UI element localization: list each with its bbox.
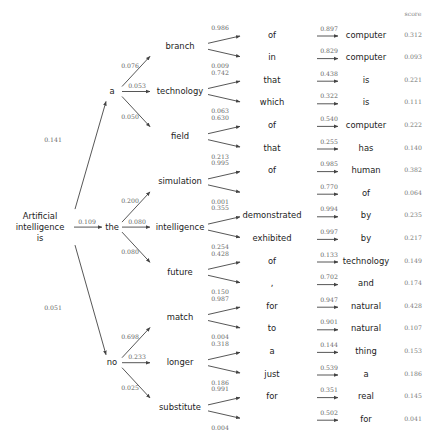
level4-probability: 0.540 [320,115,338,122]
edge-level2-to-level3 [208,275,240,282]
edge-root-to-level1 [75,102,106,210]
level4-token: real [358,391,374,401]
level3-token: of [268,30,277,40]
level3-probability: 0.991 [211,385,229,392]
level4-token: and [358,278,374,288]
beam-search-tree-diagram: Artificialintelligenceisscorea0.141the0.… [0,0,434,444]
level4-probability: 0.947 [320,296,338,303]
level4-token: human [351,165,380,175]
level4-probability: 0.255 [320,138,338,145]
labels-layer: Artificialintelligenceisscorea0.141the0.… [16,10,422,431]
edge-level2-to-level3 [208,352,240,359]
level2-probability: 0.080 [128,218,146,225]
level3-token: exhibited [253,233,292,243]
level1-probability: 0.051 [44,304,62,311]
level4-probability: 0.994 [320,205,338,212]
level2-probability: 0.025 [121,384,139,391]
level4-token: for [360,414,372,424]
edge-level2-to-level3 [208,217,240,224]
level2-token: match [167,312,194,322]
level4-probability: 0.985 [320,160,338,167]
level3-token: for [266,391,278,401]
sequence-score: 0.312 [404,31,422,38]
level4-probability: 0.502 [320,409,338,416]
edge-root-to-level1 [75,245,106,355]
level2-token: longer [167,357,194,367]
level2-probability: 0.080 [121,248,139,255]
level3-probability: 0.630 [211,114,229,121]
level1-probability: 0.141 [44,136,62,143]
level1-token: no [107,357,117,367]
level4-probability: 0.702 [320,273,338,280]
edge-level2-to-level3 [208,398,240,405]
level4-token: of [362,188,371,198]
sequence-score: 0.186 [404,370,422,377]
level3-token: to [268,323,276,333]
level3-token: of [268,256,277,266]
sequence-score: 0.140 [404,144,422,151]
level2-probability: 0.200 [121,197,139,204]
edge-level1-to-level2 [122,97,150,127]
level3-probability: 0.986 [211,24,229,31]
level3-probability: 0.987 [211,295,229,302]
edge-level2-to-level3 [208,185,240,192]
edge-level2-to-level3 [208,366,240,373]
level2-token: substitute [159,402,201,412]
score-column-header: score [405,10,422,17]
level3-probability: 0.428 [211,250,229,257]
level3-token: for [266,301,278,311]
level3-token: , [271,278,274,288]
root-prompt-line: intelligence [16,222,65,232]
level1-token: the [105,222,119,232]
level3-probability: 0.004 [211,424,229,431]
level3-token: a [269,346,274,356]
level4-probability: 0.829 [320,47,338,54]
root-prompt-line: Artificial [23,211,57,221]
sequence-score: 0.235 [404,211,422,218]
edge-level2-to-level3 [208,262,240,269]
edge-level2-to-level3 [208,126,240,133]
level4-token: is [363,97,370,107]
level2-token: simulation [158,176,202,186]
sequence-score: 0.149 [404,257,422,264]
sequence-score: 0.107 [404,324,422,331]
level2-token: field [171,131,189,141]
level4-probability: 0.897 [320,25,338,32]
level2-token: technology [157,86,204,96]
level2-probability: 0.076 [121,62,139,69]
level4-token: by [361,210,371,220]
edge-level2-to-level3 [208,411,240,418]
edge-level2-to-level3 [208,140,240,147]
sequence-score: 0.153 [404,347,422,354]
level4-probability: 0.997 [320,228,338,235]
level3-token: which [260,97,284,107]
sequence-score: 0.145 [404,392,422,399]
level4-token: computer [346,120,387,130]
edge-level2-to-level3 [208,321,240,328]
level4-probability: 0.133 [320,251,338,258]
level3-token: of [268,120,277,130]
level4-token: technology [343,256,390,266]
level3-token: just [263,369,280,379]
level3-token: of [268,165,277,175]
level3-probability: 0.318 [211,340,229,347]
edge-level2-to-level3 [208,49,240,56]
sequence-score: 0.064 [404,189,422,196]
best-sequence-score: 0.428 [404,302,422,309]
level2-token: intelligence [156,222,205,232]
level4-probability: 0.351 [320,386,338,393]
beam-search-tree: Artificialintelligenceisscorea0.141the0.… [0,0,434,444]
level3-probability: 0.995 [211,159,229,166]
edge-level2-to-level3 [208,36,240,43]
level4-token: natural [351,323,381,333]
level2-probability: 0.233 [128,353,146,360]
edge-level2-to-level3 [208,172,240,179]
level2-token: future [167,267,192,277]
level2-token: branch [165,41,194,51]
level3-token: that [263,143,281,153]
level4-probability: 0.438 [320,70,338,77]
sequence-score: 0.041 [404,415,422,422]
edge-level2-to-level3 [208,95,240,102]
level3-token: in [268,52,276,62]
sequence-score: 0.174 [404,279,422,286]
